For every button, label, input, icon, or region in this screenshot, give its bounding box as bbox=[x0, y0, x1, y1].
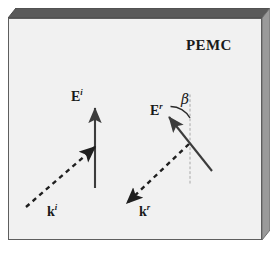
figure-canvas: PEMC Ei Er β ki kr bbox=[0, 0, 279, 256]
E-reflected-superscript: r bbox=[159, 101, 162, 111]
beta-label: β bbox=[181, 92, 189, 106]
E-reflected-label: Er bbox=[150, 102, 163, 118]
E-reflected-base: E bbox=[150, 103, 159, 118]
k-reflected-label: kr bbox=[139, 203, 150, 219]
k-reflected-base: k bbox=[139, 204, 147, 219]
k-incident-arrow bbox=[26, 147, 95, 207]
k-incident-base: k bbox=[47, 204, 55, 219]
E-incident-label: Ei bbox=[71, 88, 83, 104]
k-reflected-superscript: r bbox=[147, 202, 150, 212]
k-incident-label: ki bbox=[47, 203, 57, 219]
E-incident-superscript: i bbox=[80, 87, 82, 97]
k-reflected-arrow bbox=[127, 144, 189, 203]
k-incident-superscript: i bbox=[55, 202, 57, 212]
pemc-label: PEMC bbox=[186, 38, 232, 53]
E-incident-base: E bbox=[71, 89, 80, 104]
beta-angle-arc bbox=[171, 106, 191, 118]
